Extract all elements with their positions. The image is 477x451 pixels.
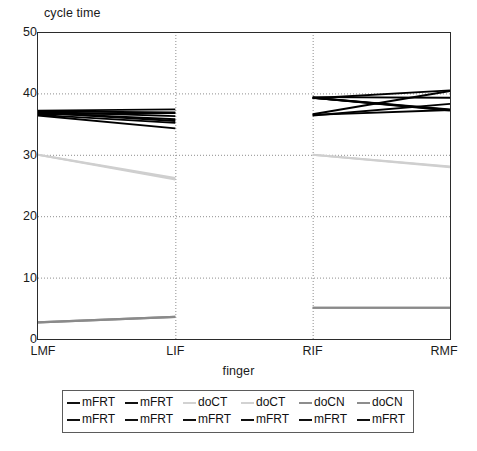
legend-item-mfrt-1-0[interactable]: mFRT [67, 412, 125, 427]
legend-swatch-icon [183, 419, 196, 421]
legend-item-mfrt-1-1[interactable]: mFRT [125, 412, 183, 427]
legend-item-doct-0-3[interactable]: doCT [241, 395, 299, 410]
legend-item-docn-0-4[interactable]: doCN [299, 395, 357, 410]
legend-swatch-icon [357, 402, 370, 404]
legend-item-docn-0-5[interactable]: doCN [357, 395, 415, 410]
legend-label: mFRT [314, 412, 347, 427]
chart-legend: mFRTmFRTdoCTdoCTdoCNdoCNmFRTmFRTmFRTmFRT… [62, 390, 414, 433]
x-tick-lif: LIF [166, 344, 184, 358]
legend-label: mFRT [372, 412, 405, 427]
legend-swatch-icon [183, 402, 196, 404]
legend-label: mFRT [82, 395, 115, 410]
legend-swatch-icon [299, 419, 312, 421]
legend-label: mFRT [198, 412, 231, 427]
x-tick-rmf: RMF [430, 344, 457, 358]
legend-label: mFRT [82, 412, 115, 427]
legend-swatch-icon [357, 419, 370, 421]
legend-label: doCT [256, 395, 285, 410]
legend-label: doCN [372, 395, 403, 410]
legend-swatch-icon [125, 419, 138, 421]
legend-item-mfrt-1-5[interactable]: mFRT [357, 412, 415, 427]
x-tick-rif: RIF [303, 344, 323, 358]
plot-frame [38, 33, 451, 340]
legend-item-mfrt-0-1[interactable]: mFRT [125, 395, 183, 410]
legend-label: mFRT [140, 412, 173, 427]
legend-swatch-icon [241, 419, 254, 421]
legend-item-doct-0-2[interactable]: doCT [183, 395, 241, 410]
plot-area [0, 0, 477, 451]
x-axis-title: finger [0, 364, 477, 378]
legend-item-mfrt-1-4[interactable]: mFRT [299, 412, 357, 427]
legend-swatch-icon [67, 419, 80, 421]
legend-swatch-icon [299, 402, 312, 404]
series-lines [38, 90, 450, 322]
series-10-mfrt-seg-0-1 [38, 111, 175, 112]
series-10-mfrt-seg-2-3 [313, 98, 450, 110]
cycle-time-line-chart: cycle time 01020304050 LMFLIFRIFRMF fing… [0, 0, 477, 451]
legend-label: mFRT [140, 395, 173, 410]
series-5-docn-seg-0-1 [38, 317, 175, 323]
legend-row-2: mFRTmFRTmFRTmFRTmFRTmFRT [67, 411, 409, 428]
x-tick-lmf: LMF [31, 344, 56, 358]
legend-item-mfrt-0-0[interactable]: mFRT [67, 395, 125, 410]
legend-label: doCT [198, 395, 227, 410]
series-3-doct-seg-2-3 [313, 155, 450, 167]
legend-item-mfrt-1-2[interactable]: mFRT [183, 412, 241, 427]
legend-row-1: mFRTmFRTdoCTdoCTdoCNdoCN [67, 394, 409, 411]
series-3-doct-seg-0-1 [38, 155, 175, 178]
legend-swatch-icon [125, 402, 138, 404]
legend-label: mFRT [256, 412, 289, 427]
legend-item-mfrt-1-3[interactable]: mFRT [241, 412, 299, 427]
legend-swatch-icon [241, 402, 254, 404]
legend-swatch-icon [67, 402, 80, 404]
gridlines [38, 32, 450, 339]
legend-label: doCN [314, 395, 345, 410]
series-0-mfrt-seg-0-1 [38, 109, 175, 110]
